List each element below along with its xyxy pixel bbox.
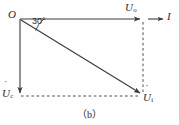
phasor-label-ui: ˙Ui bbox=[143, 92, 153, 104]
origin-label: O bbox=[8, 9, 16, 20]
phasor-subscript-ui: i bbox=[151, 96, 153, 103]
phasor-label-uo: ˙Uo bbox=[125, 2, 137, 14]
phasor-vector-ui bbox=[21, 20, 140, 93]
phasor-dot-uo: ˙U bbox=[125, 2, 133, 13]
phasor-dot-uc: ˙U bbox=[2, 88, 10, 99]
phasor-label-uc: ˙Uc bbox=[2, 88, 13, 100]
figure-caption: （b） bbox=[0, 106, 179, 121]
current-axis-label: I bbox=[167, 11, 171, 22]
angle-label-30: 30° bbox=[32, 17, 46, 26]
phasor-subscript-uc: c bbox=[10, 92, 13, 99]
phasor-dot-ui: ˙U bbox=[143, 92, 151, 103]
phasor-diagram-figure: O 30° ˙Uo I ˙Uc ˙Ui （b） bbox=[0, 0, 179, 125]
phasor-subscript-uo: o bbox=[133, 6, 137, 13]
